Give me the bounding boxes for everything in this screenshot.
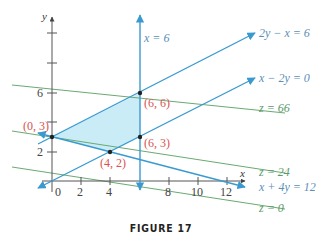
x-tick-label-8: 8 <box>165 185 171 199</box>
constraint-line-x4y-12 <box>38 133 245 187</box>
figure-caption: FIGURE 17 <box>24 222 298 235</box>
point-label-6-3: (6, 3) <box>144 136 170 150</box>
linear-programming-figure: y x 6 2 0 2 4 8 10 12 x = 6 2y − x = 6 x… <box>0 0 322 247</box>
point-label-0-3: (0, 3) <box>23 119 49 133</box>
label-x6: x = 6 <box>143 31 169 45</box>
label-2y-x-6: 2y − x = 6 <box>259 26 310 40</box>
x-axis-label: x <box>239 167 245 179</box>
constraint-line-2y-x-6 <box>38 33 255 144</box>
x-tick-label-12: 12 <box>220 185 232 199</box>
x-tick-label-2: 2 <box>77 185 83 199</box>
label-z66: z = 66 <box>258 101 290 115</box>
x-tick-label-4: 4 <box>106 185 112 199</box>
x-tick-label-10: 10 <box>191 185 203 199</box>
y-tick-label-6: 6 <box>37 86 43 100</box>
label-z24: z = 24 <box>258 165 290 179</box>
point-label-4-2: (4, 2) <box>100 156 126 170</box>
y-axis-label: y <box>41 10 47 22</box>
label-x-2y-0: x − 2y = 0 <box>258 71 310 85</box>
x-tick-label-0: 0 <box>55 185 61 199</box>
point-label-6-6: (6, 6) <box>144 96 170 110</box>
y-tick-label-2: 2 <box>37 145 43 159</box>
label-x4y-12: x + 4y = 12 <box>258 180 316 194</box>
label-z0: z = 0 <box>258 201 284 215</box>
